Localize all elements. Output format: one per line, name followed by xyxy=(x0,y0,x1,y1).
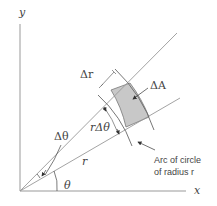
delta-r-dimension xyxy=(101,72,114,86)
delta-theta-arrow xyxy=(42,170,46,176)
arc-note-line1: Arc of circle xyxy=(154,155,201,165)
delta-theta-arc xyxy=(37,174,40,178)
delta-r-tick-inner xyxy=(99,84,103,88)
lower-ray xyxy=(20,98,180,191)
arc-note-line2: of radius r xyxy=(154,167,194,177)
r-label: r xyxy=(82,155,88,168)
y-axis-label: y xyxy=(18,6,26,19)
delta-theta-pointer-curve xyxy=(45,145,61,175)
r-delta-theta-label: rΔθ xyxy=(90,121,110,134)
arc-note-arrow xyxy=(138,142,155,150)
theta-arc xyxy=(54,171,57,191)
delta-r-label: Δr xyxy=(80,68,94,81)
polar-area-diagram: x y Δr ΔA rΔθ Arc of circle of radius r … xyxy=(0,0,217,206)
delta-a-label: ΔA xyxy=(150,79,167,92)
theta-label: θ xyxy=(64,179,71,192)
delta-theta-label: Δθ xyxy=(54,130,69,143)
x-axis-label: x xyxy=(194,184,201,197)
